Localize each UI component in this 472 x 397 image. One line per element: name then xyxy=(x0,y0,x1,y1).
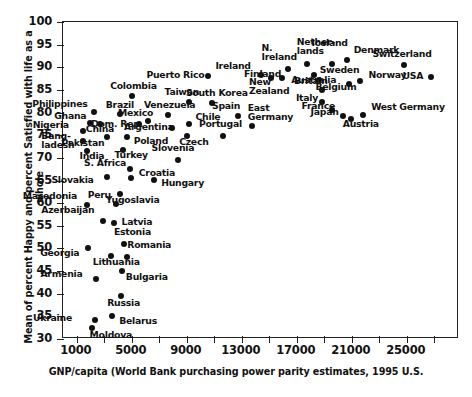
data-point xyxy=(249,123,255,129)
x-tick-21000 xyxy=(352,336,353,343)
x-tick-11000 xyxy=(214,336,215,343)
y-tick-30 xyxy=(57,339,64,340)
data-point-label: Moldova xyxy=(90,330,132,340)
data-point xyxy=(186,121,192,127)
data-point-label: Iceland xyxy=(312,38,348,48)
x-tick-label-17000: 17000 xyxy=(266,343,326,357)
data-point xyxy=(121,241,127,247)
data-point-label: Romania xyxy=(127,240,171,250)
data-point-label: EastGermany xyxy=(248,103,293,122)
data-point xyxy=(124,134,130,140)
data-point-label: Latvia xyxy=(122,217,153,227)
data-point-label: Slovakia xyxy=(51,175,93,185)
data-point-label: Croatia xyxy=(139,168,175,178)
data-point-label: Japan xyxy=(311,107,339,117)
data-point-label: N.Ireland xyxy=(262,43,297,62)
x-tick-13000 xyxy=(242,336,243,343)
data-point-label: Armenia xyxy=(40,269,82,279)
data-point-label: Finland xyxy=(244,69,281,79)
x-tick-15000 xyxy=(269,336,270,343)
data-point-label: Turkey xyxy=(115,150,148,160)
y-tick-100 xyxy=(57,22,64,23)
y-tick-70 xyxy=(57,158,64,159)
data-point-label: Switzerland xyxy=(372,49,431,59)
data-point xyxy=(304,61,310,67)
data-point-label: Ghana xyxy=(54,111,86,121)
scatter-plot-figure: 3035404550556065707580859095100 10005000… xyxy=(0,0,472,397)
data-point-label: South Korea xyxy=(186,88,248,98)
x-tick-19000 xyxy=(324,336,325,343)
data-point-label: Yugoslavia xyxy=(106,195,160,205)
y-axis-title: Mean of percent Happy and percent Satisf… xyxy=(23,27,45,347)
data-point-label: Czech xyxy=(179,137,208,147)
data-point xyxy=(220,133,226,139)
data-point-label: Brazil xyxy=(106,100,134,110)
x-tick-27000 xyxy=(434,336,435,343)
data-point xyxy=(80,128,86,134)
data-point xyxy=(209,100,215,106)
data-point-label: Pakistan xyxy=(61,138,104,148)
data-point xyxy=(128,175,134,181)
y-tick-40 xyxy=(57,294,64,295)
x-tick-9000 xyxy=(187,336,188,343)
data-point-label: Chile xyxy=(196,112,221,122)
data-point-label: Georgia xyxy=(40,248,79,258)
data-point-label: Belgium xyxy=(315,82,356,92)
data-point xyxy=(360,112,366,118)
x-tick-label-9000: 9000 xyxy=(156,343,216,357)
data-point-label: Belarus xyxy=(119,316,157,326)
data-point xyxy=(285,66,291,72)
x-tick-7000 xyxy=(159,336,160,343)
data-point-label: Russia xyxy=(107,298,140,308)
data-point-label: Bulgaria xyxy=(126,272,168,282)
data-point-label: USA xyxy=(403,71,424,81)
x-tick-label-13000: 13000 xyxy=(211,343,271,357)
data-point-label: Poland xyxy=(134,136,168,146)
x-tick-25000 xyxy=(407,336,408,343)
x-tick-17000 xyxy=(297,336,298,343)
data-point-label: Spain xyxy=(212,101,240,111)
data-point xyxy=(145,118,151,124)
y-tick-85 xyxy=(57,90,64,91)
data-point-label: Hungary xyxy=(161,178,204,188)
x-tick-1000 xyxy=(77,336,78,343)
y-tick-95 xyxy=(57,45,64,46)
x-tick-label-1000: 1000 xyxy=(46,343,106,357)
x-tick-label-5000: 5000 xyxy=(101,343,161,357)
data-point-label: Estonia xyxy=(114,227,151,237)
x-tick-23000 xyxy=(379,336,380,343)
data-point-label: Puerto Rico xyxy=(146,70,204,80)
data-point xyxy=(175,157,181,163)
x-tick-label-21000: 21000 xyxy=(321,343,381,357)
data-point xyxy=(428,74,434,80)
data-point xyxy=(186,99,192,105)
y-tick-55 xyxy=(57,226,64,227)
x-axis-title: GNP/capita (World Bank purchasing power … xyxy=(0,366,472,377)
data-point-label: Norway xyxy=(368,70,406,80)
data-point-label: Austria xyxy=(343,119,379,129)
data-point-label: Lithuania xyxy=(93,257,140,267)
data-point-label: Colombia xyxy=(110,81,157,91)
y-tick-label-100: 100 xyxy=(0,14,52,28)
x-tick-label-25000: 25000 xyxy=(376,343,436,357)
y-tick-90 xyxy=(57,67,64,68)
data-point-label: India xyxy=(79,151,104,161)
data-point-label: West Germany xyxy=(371,102,445,112)
